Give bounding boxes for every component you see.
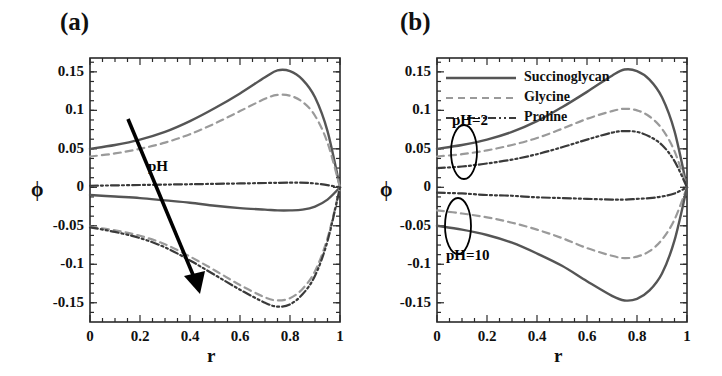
panel-a-y-tick-label: -0.05 [28, 217, 84, 234]
panel-a-y-tick-label: -0.1 [28, 255, 84, 272]
curve-proline-ph-10 [437, 187, 687, 199]
panel-a-x-tick-label: 0.4 [168, 328, 212, 345]
panel-b-x-tick-label: 0.6 [565, 328, 609, 345]
curve-succinoglycan-ph-2 [90, 70, 340, 188]
panel-b-x-tick-label: 0.2 [465, 328, 509, 345]
figure-canvas [0, 0, 722, 376]
legend-label-proline: Proline [524, 109, 567, 125]
panel-b-y-tick-label: 0 [375, 178, 431, 195]
panel-b-x-tick-label: 1 [665, 328, 709, 345]
panel-b-ph2-annotation: pH=2 [452, 112, 488, 129]
curve-proline-ph-2 [90, 183, 340, 188]
panel-a-y-tick-label: 0.1 [28, 101, 84, 118]
panel-b-y-tick-label: -0.15 [375, 294, 431, 311]
panel-a-label: (a) [60, 8, 89, 36]
panel-a-xticks [90, 58, 340, 322]
panel-b-y-tick-label: -0.1 [375, 255, 431, 272]
panel-a-frame [90, 58, 340, 322]
panel-a-x-tick-label: 1 [318, 328, 362, 345]
curve-succinoglycan-ph-10 [90, 187, 340, 210]
panel-a [90, 58, 340, 322]
panel-a-x-tick-label: 0 [68, 328, 112, 345]
panel-b-x-tick-label: 0.8 [615, 328, 659, 345]
panel-a-x-tick-label: 0.6 [218, 328, 262, 345]
curve-glycine-ph-10 [90, 187, 340, 300]
panel-b-x-tick-label: 0.4 [515, 328, 559, 345]
panel-a-y-tick-label: 0.15 [28, 63, 84, 80]
curve-succinoglycan-ph-10 [437, 187, 687, 300]
legend-label-succinoglycan: Succinoglycan [524, 69, 610, 85]
panel-b-y-tick-label: 0.15 [375, 63, 431, 80]
panel-a-x-tick-label: 0.8 [268, 328, 312, 345]
ph10-ellipse [445, 198, 471, 254]
panel-b-y-tick-label: 0.1 [375, 101, 431, 118]
panel-b-ph10-annotation: pH=10 [446, 247, 490, 264]
ph-arrow-head [184, 271, 205, 294]
panel-a-ph-annotation: pH [148, 158, 168, 175]
panel-b-x-axis-title: r [554, 345, 562, 367]
panel-a-curves [90, 70, 340, 307]
panel-b-label: (b) [400, 8, 431, 36]
panel-a-y-tick-label: 0.05 [28, 140, 84, 157]
curve-proline-ph-2 [437, 131, 687, 187]
panel-a-y-tick-label: 0 [28, 178, 84, 195]
panel-a-x-axis-title: r [207, 345, 215, 367]
panel-a-x-tick-label: 0.2 [118, 328, 162, 345]
legend-label-glycine: Glycine [524, 89, 570, 105]
panel-b-x-tick-label: 0 [415, 328, 459, 345]
panel-a-y-tick-label: -0.15 [28, 294, 84, 311]
panel-b-y-tick-label: -0.05 [375, 217, 431, 234]
ph-arrow-a [128, 119, 205, 294]
panel-b-y-tick-label: 0.05 [375, 140, 431, 157]
